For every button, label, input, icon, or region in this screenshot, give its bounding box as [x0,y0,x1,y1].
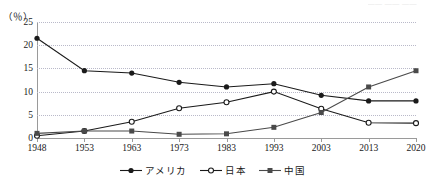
x-axis-tick-label: 1948 [28,143,47,153]
x-axis-tick-label: 1953 [75,143,94,153]
filled-square-marker [366,84,371,89]
series-layer [37,22,416,138]
legend-label: 中国 [284,163,305,177]
open-circle-marker [366,120,371,125]
header-corner-note: —— —— —— [368,0,418,8]
legend-label: 日本 [225,163,246,177]
filled-circle-marker [319,93,324,98]
chart-legend: アメリカ日本中国 [0,163,425,177]
filled-square-marker [82,129,87,134]
x-axis-tick-mark [132,138,133,142]
open-circle-marker [224,100,229,105]
y-axis-tick-label: 10 [24,87,34,97]
open-circle-marker [177,106,182,111]
filled-circle-marker [82,68,87,73]
x-axis-tick-mark [179,138,180,142]
x-axis-tick-mark [369,138,370,142]
filled-circle-marker [366,98,371,103]
filled-circle-marker [34,36,39,41]
x-axis-tick-mark [227,138,228,142]
filled-square-marker [224,131,229,136]
open-circle-marker [271,89,276,94]
filled-square-marker [129,129,134,134]
filled-circle-marker [177,80,182,85]
filled-circle-marker [271,81,276,86]
x-axis-tick-mark [416,138,417,142]
x-axis-tick-label: 2003 [312,143,331,153]
x-axis-tick-label: 1963 [122,143,141,153]
open-circle-marker [414,121,419,126]
legend-item-1[interactable]: アメリカ [120,163,187,177]
filled-square-marker [177,132,182,137]
legend-label: アメリカ [145,163,187,177]
filled-circle-marker [413,98,418,103]
plot-area: 0510152025 19481953196319731983199320032… [37,22,416,138]
x-axis-tick-label: 1973 [170,143,189,153]
x-axis-tick-label: 2020 [407,143,426,153]
x-axis-tick-label: 1983 [217,143,236,153]
filled-square-marker [259,166,281,175]
y-axis-tick-label: 5 [28,110,33,120]
legend-item-3[interactable]: 中国 [259,163,305,177]
series-filled-circle [34,36,418,104]
y-axis-tick-label: 15 [24,63,34,73]
y-axis-tick-label: 25 [24,17,34,27]
y-axis-tick-label: 0 [28,133,33,143]
filled-square-marker [35,131,40,136]
filled-square-marker [414,68,419,73]
x-axis-tick-label: 2013 [359,143,378,153]
x-axis-tick-mark [84,138,85,142]
open-circle-marker [129,119,134,124]
open-circle-marker [200,166,222,175]
y-axis-tick-label: 20 [24,40,34,50]
x-axis-tick-label: 1993 [264,143,283,153]
filled-square-marker [271,125,276,130]
filled-circle-marker [129,70,134,75]
filled-square-marker [319,110,324,115]
filled-circle-marker [120,166,142,175]
legend-item-2[interactable]: 日本 [200,163,246,177]
x-axis-tick-mark [321,138,322,142]
series-line [37,92,416,136]
x-axis-tick-mark [274,138,275,142]
filled-circle-marker [224,84,229,89]
